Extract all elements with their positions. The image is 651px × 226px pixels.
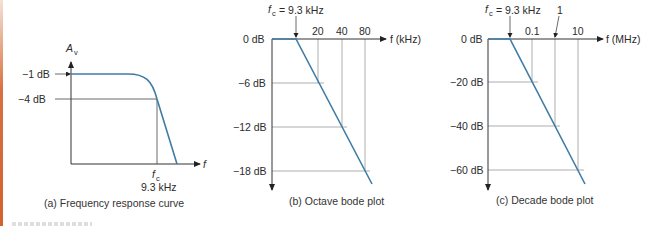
panel-b-x-axis-label: f (kHz) [390, 33, 421, 45]
panel-c-xtick-0.1: 0.1 [525, 25, 540, 37]
panel-c-ytick-minus20: −20 dB [450, 76, 484, 88]
panel-b-ytick-minus12: −12 dB [233, 121, 267, 133]
panel-c-x-axis-label: f (MHz) [606, 33, 640, 45]
panel-a-tick-minus4db: −4 dB [18, 93, 46, 105]
panel-c-decade-bode: f c = 9.3 kHz 1 0.1 10 f (MHz) 0 dB −20 … [450, 3, 640, 206]
panel-a-caption: (a) Frequency response curve [44, 197, 184, 209]
panel-b-fc-sub: c [272, 9, 276, 18]
panel-a-tick-minus1db: −1 dB [22, 68, 50, 80]
panel-b-ytick-0: 0 dB [243, 33, 265, 45]
panel-a-y-axis-sub: v [74, 48, 78, 57]
panel-c-fc-annotation: = 9.3 kHz [496, 4, 541, 16]
panel-b-octave-bode: f c = 9.3 kHz 20 40 80 f (kHz) 0 dB −6 d… [233, 3, 421, 207]
panel-c-bode-line [488, 39, 585, 184]
panel-a-response-curve [71, 74, 177, 164]
bode-figure: A v f −1 dB −4 dB f c 9.3 kHz (a) Freque… [0, 0, 651, 226]
panel-b-bode-line [272, 39, 372, 184]
panel-c-caption: (c) Decade bode plot [496, 194, 594, 206]
panel-c-xtick-10: 10 [572, 25, 584, 37]
panel-c-fc-sub: c [489, 9, 493, 18]
panel-a-fc-value: 9.3 kHz [141, 181, 177, 193]
panel-c-xtick-1: 1 [557, 4, 563, 16]
panel-a-y-axis-label: A [65, 42, 73, 54]
panel-c-ytick-minus60: −60 dB [450, 164, 484, 176]
panel-b-ytick-minus18: −18 dB [233, 165, 267, 177]
panel-b-fc-annotation: = 9.3 kHz [279, 4, 324, 16]
panel-b-ytick-minus6: −6 dB [238, 77, 266, 89]
panel-b-xtick-80: 80 [359, 25, 371, 37]
panel-c-ytick-0: 0 dB [461, 33, 483, 45]
panel-a-x-axis-label: f [203, 158, 207, 170]
panel-c-1mhz-leader [555, 16, 559, 37]
panel-b-xtick-40: 40 [336, 25, 348, 37]
panel-b-caption: (b) Octave bode plot [289, 195, 384, 207]
clipped-figure-caption [12, 222, 92, 226]
panel-b-xtick-20: 20 [312, 25, 324, 37]
panel-a-frequency-response: A v f −1 dB −4 dB f c 9.3 kHz (a) Freque… [18, 42, 207, 209]
panel-c-ytick-minus40: −40 dB [450, 120, 484, 132]
